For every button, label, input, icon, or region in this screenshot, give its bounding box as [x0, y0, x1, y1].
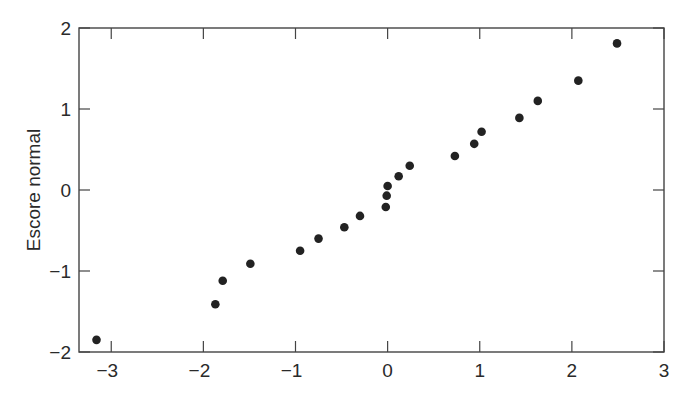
plot-border — [79, 28, 664, 352]
data-point — [477, 127, 486, 136]
data-point — [211, 300, 220, 309]
data-point — [405, 161, 414, 170]
y-tick-label: 2 — [60, 18, 71, 39]
plot-frame — [79, 28, 664, 352]
x-tick-label: 1 — [474, 360, 485, 381]
data-point — [451, 152, 460, 161]
y-axis-label: Escore normal — [23, 129, 44, 252]
data-point — [246, 259, 255, 268]
x-tick-labels: −3−2−10123 — [96, 360, 669, 381]
data-point — [340, 223, 349, 232]
scatter-chart: −3−2−10123 −2−1012 Escore normal — [0, 0, 687, 403]
data-point — [382, 191, 391, 200]
y-tick-label: −2 — [49, 342, 71, 363]
data-point — [533, 97, 542, 106]
data-point — [470, 140, 479, 149]
x-tick-label: −1 — [281, 360, 303, 381]
y-tick-labels: −2−1012 — [49, 18, 71, 363]
data-point — [314, 234, 323, 243]
data-points — [92, 39, 621, 344]
y-tick-label: 1 — [60, 99, 71, 120]
y-tick-label: 0 — [60, 180, 71, 201]
data-point — [574, 76, 583, 85]
axis-ticks — [79, 28, 664, 352]
x-tick-label: 0 — [382, 360, 393, 381]
x-tick-label: −3 — [96, 360, 118, 381]
x-tick-label: 3 — [659, 360, 670, 381]
data-point — [613, 39, 622, 48]
data-point — [92, 336, 101, 345]
x-tick-label: −2 — [189, 360, 211, 381]
data-point — [383, 182, 392, 191]
y-tick-label: −1 — [49, 261, 71, 282]
data-point — [296, 246, 305, 255]
data-point — [394, 172, 403, 181]
data-point — [515, 114, 524, 123]
data-point — [356, 212, 365, 221]
data-point — [218, 276, 227, 285]
data-point — [381, 203, 390, 212]
x-tick-label: 2 — [567, 360, 578, 381]
